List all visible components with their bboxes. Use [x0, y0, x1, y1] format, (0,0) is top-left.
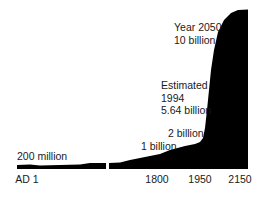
annotation-1994-line2: 1994 [161, 92, 184, 105]
x-tick-1800: 1800 [145, 173, 168, 185]
annotation-2050-line2: 10 billion [174, 34, 215, 47]
annotation-2-billion: 2 billion [168, 127, 204, 140]
population-area [17, 163, 106, 169]
annotation-2050-line1: Year 2050 [174, 21, 222, 34]
x-tick-ad1: AD 1 [15, 173, 38, 185]
annotation-1-billion: 1 billion [141, 140, 177, 153]
x-tick-1950: 1950 [188, 173, 211, 185]
annotation-1994-line3: 5.64 billion [161, 104, 211, 117]
annotation-200-million: 200 million [17, 150, 67, 163]
x-tick-2150: 2150 [228, 173, 251, 185]
annotation-1994-line1: Estimated [161, 79, 208, 92]
